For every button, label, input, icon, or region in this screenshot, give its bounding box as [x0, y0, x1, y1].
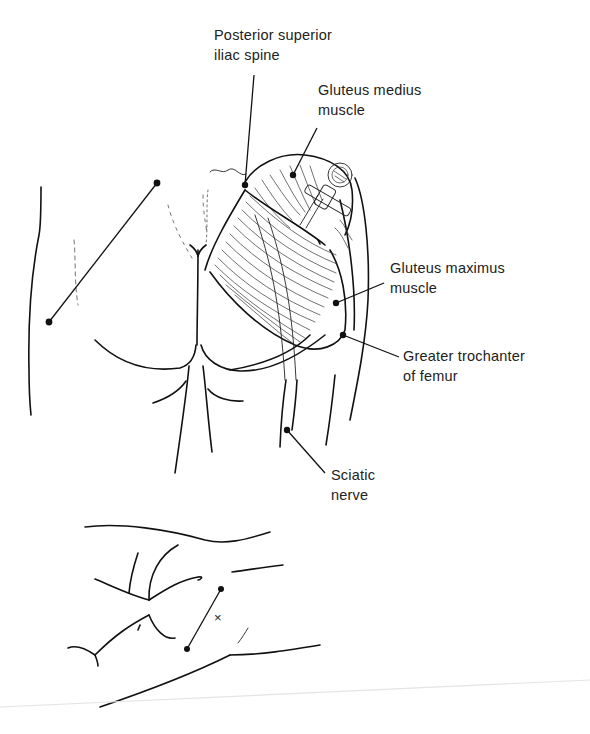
inset-side-view — [0, 525, 590, 707]
label-line: Greater trochanter — [403, 346, 525, 366]
label-posterior-superior-iliac-spine: Posterior superior iliac spine — [214, 25, 332, 65]
label-gluteus-maximus-muscle: Gluteus maximus muscle — [390, 258, 505, 298]
label-gluteus-medius-muscle: Gluteus medius muscle — [318, 80, 422, 120]
leader-lines — [46, 75, 399, 473]
label-line: Sciatic — [331, 465, 375, 485]
label-line: Posterior superior — [214, 25, 332, 45]
label-sciatic-nerve: Sciatic nerve — [331, 465, 375, 505]
label-line: Gluteus medius — [318, 80, 422, 100]
label-line: iliac spine — [214, 45, 332, 65]
anatomical-figure: Posterior superior iliac spine Gluteus m… — [0, 0, 590, 734]
label-line: muscle — [390, 278, 505, 298]
label-line: nerve — [331, 485, 375, 505]
label-line: of femur — [403, 366, 525, 386]
label-line: Gluteus maximus — [390, 258, 505, 278]
label-line: muscle — [318, 100, 422, 120]
body-outline — [29, 178, 369, 473]
injection-site-marker-icon: × — [214, 608, 222, 628]
label-greater-trochanter-of-femur: Greater trochanter of femur — [403, 346, 525, 386]
gluteus-maximus-illustration — [205, 190, 346, 380]
